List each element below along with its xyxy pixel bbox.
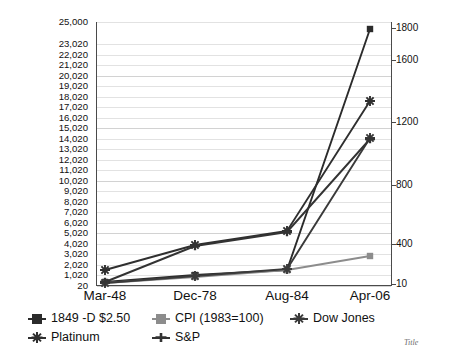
chart-legend: 1849 -D $2.50CPI (1983=100)Dow JonesPlat… xyxy=(28,312,428,352)
legend-item[interactable]: 1849 -D $2.50 xyxy=(28,312,130,325)
y-axis-left-tick-label: 6,020 xyxy=(64,218,88,228)
corner-title-note: Title xyxy=(404,338,418,347)
series-line xyxy=(105,139,370,282)
y-axis-right-tick-label: 1200 xyxy=(396,117,418,127)
data-point-marker xyxy=(367,26,373,32)
series-line xyxy=(105,138,370,283)
y-axis-left-tick-label: 8,020 xyxy=(64,197,88,207)
y-axis-right-tick-label: 10 xyxy=(396,279,407,289)
y-axis-left-tick-label: 11,020 xyxy=(59,165,88,175)
y-axis-right: 18001600120080040010 xyxy=(396,22,452,286)
y-axis-left-tick-label: 14,020 xyxy=(59,134,88,144)
y-axis-left-tick-label: 16,020 xyxy=(59,113,88,123)
y-axis-left-tick-label: 21,020 xyxy=(59,60,88,70)
y-axis-left-tick-label: 22,020 xyxy=(59,50,88,60)
y-axis-left-tick-label: 25,000 xyxy=(59,17,88,27)
data-point-marker xyxy=(365,96,375,106)
plus-marker-icon xyxy=(152,331,170,344)
series-line xyxy=(105,29,370,282)
y-axis-left-tick-label: 20,020 xyxy=(59,71,88,81)
y-axis-right-tick-mark xyxy=(391,122,396,123)
y-axis-right-tick-mark xyxy=(391,28,396,29)
y-axis-left-tick-label: 19,020 xyxy=(59,81,88,91)
chart-root: 25,00023,02022,02021,02020,02019,02018,0… xyxy=(0,0,454,364)
y-axis-right-tick-label: 400 xyxy=(396,239,413,249)
square-marker-icon xyxy=(28,312,46,325)
star-marker-icon xyxy=(28,331,46,344)
legend-item-label: Platinum xyxy=(51,331,100,344)
y-axis-left-tick-label: 4,020 xyxy=(64,239,88,249)
y-axis-left-tick-label: 12,020 xyxy=(59,155,88,165)
legend-item-label: 1849 -D $2.50 xyxy=(51,312,130,325)
x-axis: Mar-48Dec-78Aug-84Apr-06 xyxy=(96,288,392,308)
legend-item[interactable]: Platinum xyxy=(28,331,100,344)
series-lines xyxy=(96,22,392,286)
data-point-marker xyxy=(282,264,292,274)
legend-item[interactable]: Dow Jones xyxy=(290,312,375,325)
y-axis-right-tick-mark xyxy=(391,244,396,245)
series-line xyxy=(105,101,370,270)
y-axis-left-tick-label: 23,020 xyxy=(59,39,88,49)
y-axis-left-tick-label: 7,020 xyxy=(64,208,88,218)
gridline xyxy=(97,286,391,287)
y-axis-left-tick-label: 10,020 xyxy=(59,176,88,186)
legend-item[interactable]: S&P xyxy=(152,331,200,344)
x-axis-tick-label: Apr-06 xyxy=(350,288,391,304)
y-axis-left-tick-label: 1,020 xyxy=(64,271,88,281)
data-point-marker xyxy=(100,278,110,286)
y-axis-right-tick-mark xyxy=(391,284,396,285)
legend-item-label: CPI (1983=100) xyxy=(175,312,264,325)
star-marker-icon xyxy=(290,312,308,325)
legend-item-label: Dow Jones xyxy=(313,312,375,325)
legend-item-label: S&P xyxy=(175,331,200,344)
y-axis-left: 25,00023,02022,02021,02020,02019,02018,0… xyxy=(0,22,92,286)
data-point-marker xyxy=(100,265,110,275)
y-axis-right-tick-mark xyxy=(391,60,396,61)
y-axis-left-tick-label: 15,020 xyxy=(59,123,88,133)
y-axis-right-tick-mark xyxy=(391,185,396,186)
data-point-marker xyxy=(367,253,373,259)
y-axis-left-tick-label: 3,020 xyxy=(64,250,88,260)
y-axis-left-tick-label: 9,020 xyxy=(64,187,88,197)
x-axis-tick-label: Dec-78 xyxy=(173,288,217,304)
y-axis-left-tick-label: 17,020 xyxy=(59,102,88,112)
data-point-marker xyxy=(190,271,200,281)
x-axis-tick-label: Mar-48 xyxy=(84,288,127,304)
y-axis-left-tick-label: 18,020 xyxy=(59,92,88,102)
y-axis-left-tick-label: 2,020 xyxy=(64,260,88,270)
legend-item[interactable]: CPI (1983=100) xyxy=(152,312,264,325)
y-axis-right-tick-label: 800 xyxy=(396,180,413,190)
x-axis-tick-label: Aug-84 xyxy=(265,288,309,304)
y-axis-right-tick-label: 1600 xyxy=(396,55,418,65)
data-point-marker xyxy=(190,242,200,250)
y-axis-right-tick-label: 1800 xyxy=(396,23,418,33)
square-marker-icon xyxy=(152,312,170,325)
y-axis-left-tick-label: 5,020 xyxy=(64,229,88,239)
y-axis-left-tick-label: 13,020 xyxy=(59,144,88,154)
